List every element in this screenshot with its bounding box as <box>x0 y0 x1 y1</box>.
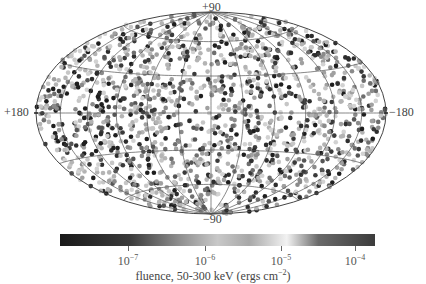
colorbar-tick-label: 10−7 <box>118 253 139 269</box>
colorbar-tick-mark <box>128 246 129 251</box>
colorbar-tick-label: 10−5 <box>271 253 292 269</box>
label-longitude-right: −180 <box>389 106 414 118</box>
colorbar-title: fluence, 50-300 keV (ergs cm−2) <box>0 268 426 284</box>
label-south-pole: −90 <box>203 213 222 225</box>
colorbar-tick-mark <box>205 246 206 251</box>
colorbar-tick-label: 10−4 <box>345 253 366 269</box>
label-longitude-left: +180 <box>4 106 29 118</box>
colorbar <box>60 234 375 246</box>
colorbar-tick-mark <box>355 246 356 251</box>
colorbar-tick-mark <box>281 246 282 251</box>
all-sky-map <box>0 0 426 230</box>
label-north-pole: +90 <box>202 1 221 13</box>
colorbar-tick-label: 10−6 <box>195 253 216 269</box>
